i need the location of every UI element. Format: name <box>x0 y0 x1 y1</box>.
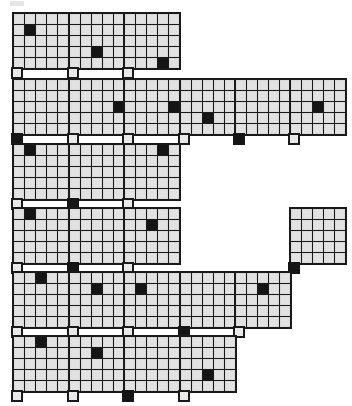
matrix-cell-empty[interactable] <box>103 242 113 252</box>
matrix-cell-empty[interactable] <box>125 25 135 35</box>
matrix-cell-empty[interactable] <box>36 381 46 391</box>
matrix-cell-empty[interactable] <box>36 317 46 327</box>
matrix-cell-empty[interactable] <box>14 156 24 166</box>
matrix-cell-empty[interactable] <box>136 124 146 134</box>
matrix-cell-empty[interactable] <box>81 381 91 391</box>
glyph[interactable] <box>68 143 121 205</box>
matrix-cell-empty[interactable] <box>125 189 135 199</box>
matrix-cell-empty[interactable] <box>36 220 46 230</box>
matrix-cell-empty[interactable] <box>47 273 57 283</box>
matrix-cell-empty[interactable] <box>25 273 35 283</box>
matrix-cell-empty[interactable] <box>214 273 224 283</box>
matrix-cell-empty[interactable] <box>147 91 157 101</box>
glyph[interactable] <box>289 78 342 140</box>
matrix-cell-empty[interactable] <box>47 381 57 391</box>
matrix-cell-empty[interactable] <box>58 189 68 199</box>
matrix-cell-empty[interactable] <box>70 47 80 57</box>
matrix-cell-empty[interactable] <box>181 359 191 369</box>
matrix-cell-empty[interactable] <box>36 306 46 316</box>
matrix-cell-empty[interactable] <box>47 178 57 188</box>
matrix-cell-empty[interactable] <box>92 370 102 380</box>
matrix-cell-empty[interactable] <box>47 124 57 134</box>
matrix-cell-filled[interactable] <box>313 102 323 112</box>
matrix-cell-empty[interactable] <box>58 317 68 327</box>
matrix-cell-empty[interactable] <box>36 253 46 263</box>
matrix-cell-empty[interactable] <box>169 145 179 155</box>
matrix-cell-empty[interactable] <box>258 317 268 327</box>
matrix-cell-empty[interactable] <box>92 80 102 90</box>
matrix-cell-empty[interactable] <box>25 317 35 327</box>
matrix-cell-empty[interactable] <box>58 337 68 347</box>
matrix-cell-empty[interactable] <box>335 113 345 123</box>
matrix-cell-empty[interactable] <box>125 167 135 177</box>
matrix-cell-empty[interactable] <box>92 102 102 112</box>
matrix-cell-empty[interactable] <box>324 80 334 90</box>
matrix-cell-empty[interactable] <box>169 359 179 369</box>
matrix-cell-empty[interactable] <box>192 317 202 327</box>
glyph-tail-empty[interactable] <box>179 391 189 401</box>
matrix-cell-empty[interactable] <box>302 80 312 90</box>
matrix-cell-empty[interactable] <box>280 273 290 283</box>
matrix-cell-empty[interactable] <box>125 253 135 263</box>
matrix-cell-empty[interactable] <box>169 337 179 347</box>
matrix-cell-empty[interactable] <box>103 359 113 369</box>
matrix-cell-empty[interactable] <box>58 47 68 57</box>
matrix-cell-empty[interactable] <box>158 167 168 177</box>
matrix-cell-empty[interactable] <box>158 14 168 24</box>
matrix-cell-empty[interactable] <box>158 370 168 380</box>
matrix-cell-empty[interactable] <box>81 113 91 123</box>
matrix-cell-empty[interactable] <box>58 178 68 188</box>
glyph[interactable] <box>12 271 65 333</box>
matrix-cell-empty[interactable] <box>181 284 191 294</box>
matrix-cell-empty[interactable] <box>125 47 135 57</box>
matrix-cell-empty[interactable] <box>14 242 24 252</box>
matrix-cell-empty[interactable] <box>236 273 246 283</box>
matrix-cell-empty[interactable] <box>58 220 68 230</box>
matrix-cell-empty[interactable] <box>92 220 102 230</box>
glyph[interactable] <box>179 271 232 333</box>
matrix-cell-empty[interactable] <box>147 337 157 347</box>
matrix-cell-empty[interactable] <box>70 102 80 112</box>
matrix-cell-filled[interactable] <box>147 220 157 230</box>
matrix-cell-empty[interactable] <box>81 242 91 252</box>
matrix-cell-empty[interactable] <box>258 102 268 112</box>
matrix-cell-empty[interactable] <box>47 231 57 241</box>
glyph[interactable] <box>123 271 176 333</box>
matrix-cell-empty[interactable] <box>291 124 301 134</box>
matrix-cell-empty[interactable] <box>236 306 246 316</box>
matrix-cell-empty[interactable] <box>25 295 35 305</box>
matrix-cell-filled[interactable] <box>158 58 168 68</box>
matrix-cell-empty[interactable] <box>25 167 35 177</box>
matrix-cell-empty[interactable] <box>92 381 102 391</box>
matrix-cell-empty[interactable] <box>169 242 179 252</box>
glyph[interactable] <box>123 143 176 205</box>
matrix-cell-empty[interactable] <box>47 156 57 166</box>
matrix-cell-empty[interactable] <box>47 80 57 90</box>
matrix-cell-empty[interactable] <box>147 102 157 112</box>
matrix-cell-filled[interactable] <box>203 370 213 380</box>
matrix-cell-empty[interactable] <box>36 124 46 134</box>
glyph-tail-empty[interactable] <box>12 391 22 401</box>
matrix-cell-empty[interactable] <box>81 220 91 230</box>
matrix-cell-empty[interactable] <box>147 359 157 369</box>
matrix-cell-empty[interactable] <box>36 145 46 155</box>
matrix-cell-empty[interactable] <box>47 167 57 177</box>
matrix-cell-empty[interactable] <box>125 113 135 123</box>
matrix-cell-empty[interactable] <box>335 124 345 134</box>
matrix-cell-filled[interactable] <box>169 102 179 112</box>
matrix-cell-empty[interactable] <box>169 14 179 24</box>
matrix-cell-empty[interactable] <box>47 317 57 327</box>
glyph[interactable] <box>123 78 176 140</box>
matrix-cell-empty[interactable] <box>92 167 102 177</box>
matrix-cell-empty[interactable] <box>169 167 179 177</box>
matrix-cell-empty[interactable] <box>335 231 345 241</box>
matrix-cell-empty[interactable] <box>25 253 35 263</box>
matrix-cell-empty[interactable] <box>247 284 257 294</box>
matrix-cell-empty[interactable] <box>14 337 24 347</box>
matrix-cell-empty[interactable] <box>92 156 102 166</box>
matrix-cell-empty[interactable] <box>302 209 312 219</box>
matrix-cell-empty[interactable] <box>125 231 135 241</box>
matrix-cell-empty[interactable] <box>147 317 157 327</box>
matrix-cell-empty[interactable] <box>214 113 224 123</box>
matrix-cell-empty[interactable] <box>58 124 68 134</box>
